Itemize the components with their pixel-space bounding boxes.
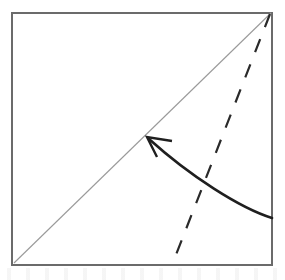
fold-direction-arrow-curve [149,139,272,218]
origami-diagram [0,0,285,280]
existing-diagonal-crease [14,13,271,263]
valley-fold-dashed-line [172,14,270,265]
fold-diagram-canvas [0,0,285,280]
